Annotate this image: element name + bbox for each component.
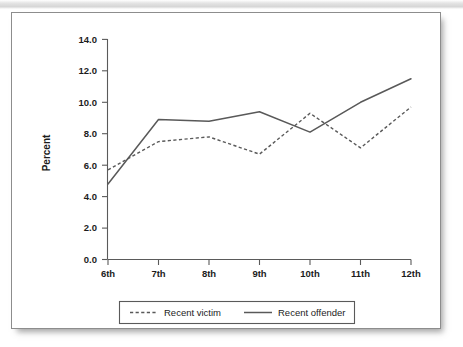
y-tick-label: 0.0 bbox=[84, 254, 97, 265]
x-tick-label: 11th bbox=[351, 268, 370, 279]
x-tick-label: 12th bbox=[401, 268, 421, 279]
x-tick-label: 7th bbox=[151, 268, 165, 279]
series-line-recent-victim bbox=[108, 107, 411, 170]
line-chart: 0.0 2.0 4.0 6.0 8.0 10.0 12.0 14.0 bbox=[12, 13, 442, 330]
legend-label-recent-offender: Recent offender bbox=[278, 307, 345, 318]
x-tick-label: 6th bbox=[101, 268, 115, 279]
y-tick-label: 10.0 bbox=[79, 97, 98, 108]
chart-legend: Recent victim Recent offender bbox=[120, 302, 355, 324]
figure-card: 0.0 2.0 4.0 6.0 8.0 10.0 12.0 14.0 bbox=[11, 12, 441, 329]
series-line-recent-offender bbox=[108, 79, 411, 184]
x-tick-label: 9th bbox=[252, 268, 266, 279]
y-axis-ticks: 0.0 2.0 4.0 6.0 8.0 10.0 12.0 14.0 bbox=[79, 34, 108, 265]
x-tick-label: 10th bbox=[300, 268, 320, 279]
y-tick-label: 12.0 bbox=[79, 65, 98, 76]
y-axis-title: Percent bbox=[41, 134, 52, 171]
y-tick-label: 14.0 bbox=[79, 34, 98, 45]
page-top-strip bbox=[0, 0, 463, 9]
x-axis-ticks: 6th 7th 8th 9th 10th 11th 12th bbox=[101, 260, 421, 280]
legend-label-recent-victim: Recent victim bbox=[164, 307, 221, 318]
x-tick-label: 8th bbox=[202, 268, 216, 279]
page-root: 0.0 2.0 4.0 6.0 8.0 10.0 12.0 14.0 bbox=[0, 0, 463, 347]
chart-svg: 0.0 2.0 4.0 6.0 8.0 10.0 12.0 14.0 bbox=[12, 13, 442, 330]
y-tick-label: 2.0 bbox=[84, 222, 97, 233]
y-tick-label: 4.0 bbox=[84, 191, 97, 202]
y-tick-label: 8.0 bbox=[84, 128, 97, 139]
y-tick-label: 6.0 bbox=[84, 160, 97, 171]
